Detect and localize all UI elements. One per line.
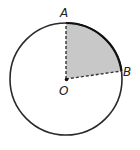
circle-diagram: A B O [0,0,140,150]
center-point-o [65,78,69,82]
label-o: O [59,84,68,98]
label-b: B [123,65,131,79]
label-a: A [59,6,68,20]
